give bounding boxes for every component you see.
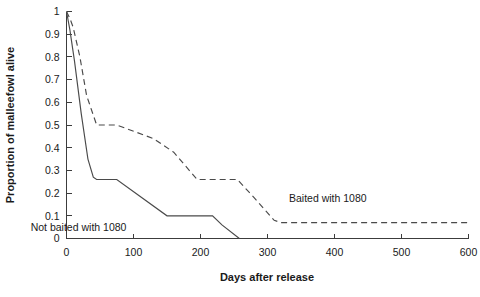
y-tick-label: 0.9 xyxy=(45,28,60,40)
y-tick-label: 0.4 xyxy=(45,142,60,154)
series-line-not-baited-with-1080 xyxy=(67,12,240,239)
series-label-not-baited-with-1080: Not baited with 1080 xyxy=(31,221,127,233)
series-annotations: Baited with 1080Not baited with 1080 xyxy=(31,192,367,232)
x-tick-label: 200 xyxy=(192,246,210,258)
y-axis-title: Proportion of malleefowl alive xyxy=(4,47,16,203)
axes xyxy=(67,12,469,239)
x-tick-label: 0 xyxy=(64,246,70,258)
x-axis-title: Days after release xyxy=(220,271,314,283)
x-tick-label: 400 xyxy=(326,246,344,258)
y-tick-label: 0.5 xyxy=(45,119,60,131)
y-tick-label: 0.8 xyxy=(45,51,60,63)
series-line-baited-with-1080 xyxy=(67,12,469,223)
y-axis-ticks xyxy=(67,12,72,239)
x-axis-ticks xyxy=(67,234,469,239)
series-lines xyxy=(67,12,469,239)
x-tick-label: 300 xyxy=(259,246,277,258)
survival-curve-chart: 0100200300400500600 00.10.20.30.40.50.60… xyxy=(0,0,480,297)
y-tick-label: 1 xyxy=(54,5,60,17)
y-tick-label: 0.7 xyxy=(45,73,60,85)
x-tick-label: 100 xyxy=(125,246,143,258)
y-axis-tick-labels: 00.10.20.30.40.50.60.70.80.91 xyxy=(45,5,60,244)
y-tick-label: 0.2 xyxy=(45,187,60,199)
x-axis-tick-labels: 0100200300400500600 xyxy=(64,246,478,258)
y-tick-label: 0.6 xyxy=(45,96,60,108)
figure-root: 0100200300400500600 00.10.20.30.40.50.60… xyxy=(0,0,480,297)
y-tick-label: 0 xyxy=(54,232,60,244)
x-tick-label: 500 xyxy=(393,246,411,258)
axis-spines xyxy=(67,12,469,239)
x-tick-label: 600 xyxy=(460,246,478,258)
series-label-baited-with-1080: Baited with 1080 xyxy=(289,192,367,204)
y-tick-label: 0.3 xyxy=(45,164,60,176)
